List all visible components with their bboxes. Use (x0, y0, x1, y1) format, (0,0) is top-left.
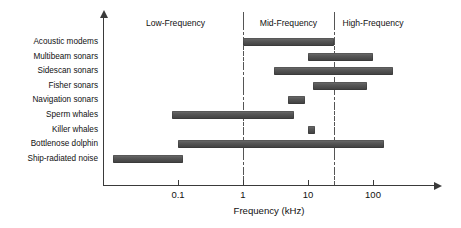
y-axis-arrow-icon (100, 10, 108, 18)
category-label: Bottlenose dolphin (31, 139, 98, 149)
x-tick-label: 1 (240, 189, 245, 200)
x-axis-title: Frequency (kHz) (234, 205, 305, 216)
category-label: Killer whales (52, 125, 98, 135)
range-bar (288, 96, 305, 104)
x-axis-line (103, 185, 435, 186)
category-axis-labels: Acoustic modemsMultibeam sonarsSidescan … (0, 0, 98, 228)
category-label: Acoustic modems (33, 37, 98, 47)
category-label: Sidescan sonars (37, 66, 98, 76)
x-tick (308, 180, 309, 185)
band-label: Mid-Frequency (260, 18, 317, 28)
x-tick-label: 0.1 (171, 189, 184, 200)
range-bar (308, 126, 315, 134)
x-tick (373, 180, 374, 185)
band-divider (334, 12, 335, 185)
frequency-range-chart: Acoustic modemsMultibeam sonarsSidescan … (0, 0, 461, 228)
range-bar (113, 155, 183, 163)
band-label: High-Frequency (342, 18, 403, 28)
x-axis-arrow-icon (434, 182, 442, 190)
category-label: Multibeam sonars (33, 52, 98, 62)
x-tick-label: 10 (303, 189, 314, 200)
range-bar (243, 38, 334, 46)
x-tick (178, 180, 179, 185)
x-tick-label: 100 (365, 189, 381, 200)
y-axis-line (103, 18, 104, 185)
category-label: Navigation sonars (32, 95, 98, 105)
category-label: Sperm whales (46, 110, 98, 120)
range-bar (308, 53, 373, 61)
category-label: Fisher sonars (48, 81, 98, 91)
category-label: Ship-radiated noise (27, 154, 98, 164)
range-bar (313, 82, 367, 90)
range-bar (178, 140, 384, 148)
range-bar (172, 111, 294, 119)
band-label: Low-Frequency (146, 18, 205, 28)
range-bar (274, 67, 393, 75)
x-tick (243, 180, 244, 185)
